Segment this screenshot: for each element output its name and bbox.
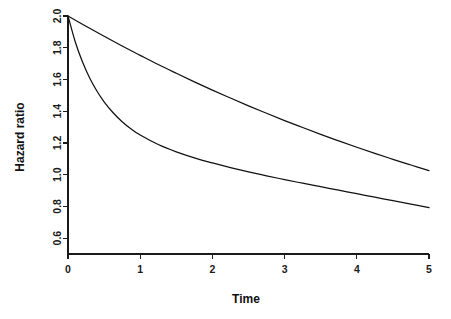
x-tick-label: 1 bbox=[137, 263, 143, 275]
hazard-ratio-chart: 0123450.60.81.01.21.41.61.82.0 Time Haza… bbox=[0, 0, 451, 319]
x-tick-label: 4 bbox=[354, 263, 360, 275]
x-tick-label: 0 bbox=[65, 263, 71, 275]
y-tick-label: 2.0 bbox=[51, 9, 63, 24]
series-line-slow-decay bbox=[68, 16, 429, 171]
y-tick-label: 0.8 bbox=[51, 199, 63, 214]
y-tick-label: 1.0 bbox=[51, 167, 63, 182]
x-tick-label: 5 bbox=[426, 263, 432, 275]
y-tick-label: 1.4 bbox=[51, 104, 63, 119]
y-tick-label: 1.2 bbox=[51, 135, 63, 150]
series-line-fast-decay bbox=[68, 16, 429, 208]
plot-canvas: 0123450.60.81.01.21.41.61.82.0 Time Haza… bbox=[0, 0, 451, 319]
y-axis-title: Hazard ratio bbox=[13, 102, 27, 171]
x-tick-label: 3 bbox=[282, 263, 288, 275]
axes-group bbox=[63, 16, 429, 259]
y-tick-label: 0.6 bbox=[51, 231, 63, 246]
x-axis-title: Time bbox=[232, 292, 260, 306]
x-tick-label: 2 bbox=[209, 263, 215, 275]
series-group bbox=[68, 16, 429, 208]
tick-labels-group: 0123450.60.81.01.21.41.61.82.0 bbox=[51, 9, 432, 275]
y-tick-label: 1.8 bbox=[51, 40, 63, 55]
y-tick-label: 1.6 bbox=[51, 72, 63, 87]
